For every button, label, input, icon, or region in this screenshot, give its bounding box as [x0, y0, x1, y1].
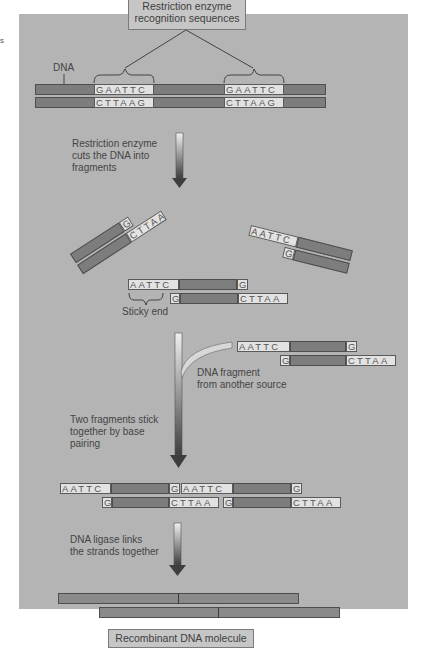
sticky-end-label: Sticky end — [122, 306, 168, 318]
recognition-sequences-label: Restriction enzyme recognition sequences — [128, 0, 246, 30]
brace-right — [224, 69, 284, 83]
recognition-seq: GAATTC — [224, 84, 284, 95]
step-ligase-text: DNA ligase links the strands together — [70, 534, 159, 558]
recombinant-dna-label: Recombinant DNA molecule — [108, 629, 254, 648]
step-pairing-text: Two fragments stick together by base pai… — [70, 414, 158, 450]
recognition-seq: CTTAAG — [94, 97, 154, 108]
recognition-seq: CTTAAG — [224, 97, 284, 108]
sticky-end-brace — [129, 293, 163, 305]
dna-label: DNA — [53, 62, 74, 74]
pointer-line-left — [125, 30, 186, 68]
step-cut-text: Restriction enzyme cuts the DNA into fra… — [72, 138, 157, 174]
foreign-fragment-label: DNA fragment from another source — [197, 367, 287, 391]
brace-left — [94, 69, 154, 83]
down-arrow-icon — [172, 178, 187, 188]
pointer-line-right — [186, 30, 253, 68]
down-arrow-icon — [170, 455, 187, 468]
down-arrow-icon — [169, 565, 186, 576]
recognition-seq: GAATTC — [94, 84, 154, 95]
